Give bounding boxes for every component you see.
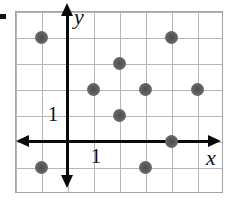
- data-point: [87, 83, 100, 96]
- x-tick-label-1: 1: [88, 146, 104, 167]
- data-point: [191, 83, 204, 96]
- data-point: [139, 161, 152, 174]
- scatter-plot-figure: y x 1 1: [0, 0, 233, 206]
- data-point: [139, 83, 152, 96]
- x-axis-label: x: [206, 147, 216, 169]
- data-point: [165, 135, 178, 148]
- y-axis-arrow-up-icon: [61, 3, 73, 16]
- x-axis: [24, 140, 211, 143]
- y-axis-label: y: [74, 6, 84, 28]
- data-point: [113, 109, 126, 122]
- data-point: [35, 161, 48, 174]
- x-axis-arrow-left-icon: [16, 135, 29, 147]
- list-dash-icon: [0, 14, 6, 19]
- y-axis-arrow-down-icon: [61, 175, 73, 188]
- y-axis: [66, 13, 69, 179]
- data-point: [165, 31, 178, 44]
- y-tick-label-1: 1: [45, 104, 61, 125]
- data-point: [113, 57, 126, 70]
- data-point: [35, 31, 48, 44]
